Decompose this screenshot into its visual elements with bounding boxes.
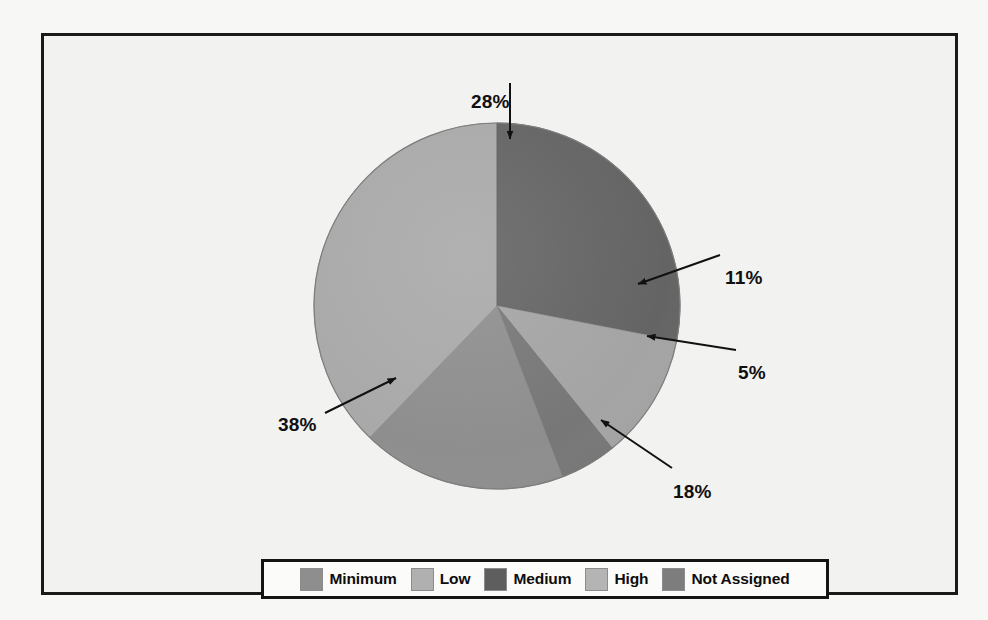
legend-swatch-minimum [300,568,323,591]
legend-item-not-assigned[interactable]: Not Assigned [662,568,789,591]
pie-label-low: 11% [725,267,763,289]
legend-swatch-high [585,568,608,591]
legend-item-high[interactable]: High [585,568,648,591]
legend-label-low: Low [440,570,471,588]
legend-item-low[interactable]: Low [411,568,471,591]
pie-label-medium: 28% [471,91,510,113]
legend-label-medium: Medium [513,570,571,588]
page-background: 28% 11% 5% 18% 38% Minimum Low Medium [0,0,988,620]
pie-label-minimum: 18% [673,481,712,503]
legend-swatch-low [411,568,434,591]
chart-frame: 28% 11% 5% 18% 38% Minimum Low Medium [41,33,958,595]
pie-chart-svg [44,36,955,592]
pie-label-high: 38% [278,414,317,436]
legend-swatch-not-assigned [662,568,685,591]
legend-swatch-medium [484,568,507,591]
legend-item-medium[interactable]: Medium [484,568,571,591]
legend-item-minimum[interactable]: Minimum [300,568,396,591]
pie-shading-overlay [314,123,680,489]
pie-chart-plot-area: 28% 11% 5% 18% 38% Minimum Low Medium [44,36,955,592]
pie-label-not-assigned: 5% [738,362,766,384]
legend-label-minimum: Minimum [329,570,396,588]
legend-label-high: High [614,570,648,588]
chart-legend: Minimum Low Medium High Not Assigned [261,559,829,599]
legend-label-not-assigned: Not Assigned [691,570,789,588]
